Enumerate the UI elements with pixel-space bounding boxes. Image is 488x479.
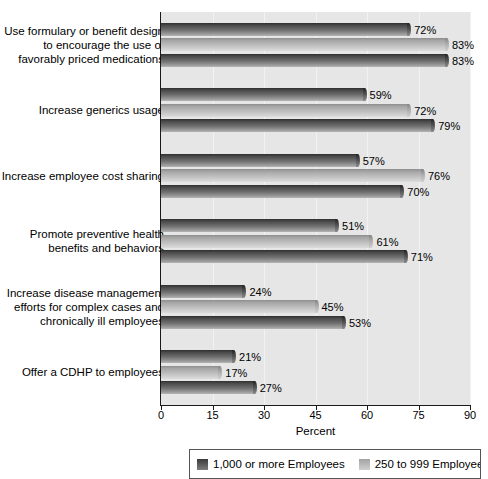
bar-end-cap [363, 88, 367, 101]
category-label-line: favorably priced medications [0, 52, 164, 66]
legend-swatch [359, 459, 370, 470]
category-label-line: Promote preventive health [0, 227, 164, 241]
category-label-line: Increase generics usage [0, 103, 164, 117]
category-label: Increase disease managementefforts for c… [0, 286, 164, 328]
bar-end-cap [315, 300, 319, 313]
bar-end-cap [445, 54, 449, 67]
bar-value-label: 57% [363, 155, 385, 168]
bar [161, 23, 408, 36]
category-label-line: Offer a CDHP to employees [0, 365, 164, 379]
category-label-line: benefits and behaviors [0, 241, 164, 255]
bar [161, 350, 233, 363]
bar-value-label: 51% [342, 220, 364, 233]
category-label: Use formulary or benefit designto encour… [0, 24, 164, 66]
plot-area [161, 12, 470, 405]
bar-value-label: 72% [414, 105, 436, 118]
category-label-line: efforts for complex cases and [0, 300, 164, 314]
bar-end-cap [404, 250, 408, 263]
category-label-line: chronically ill employees [0, 314, 164, 328]
x-axis-tick-label: 30 [244, 409, 284, 422]
bar-value-label: 61% [376, 236, 398, 249]
x-axis-tick-label: 0 [141, 409, 181, 422]
bar [161, 54, 446, 67]
bar-value-label: 72% [414, 24, 436, 37]
bar [161, 219, 336, 232]
x-axis-title: Percent [161, 425, 470, 437]
bar [161, 316, 343, 329]
legend-label: 1,000 or more Employees [213, 458, 345, 471]
category-label: Offer a CDHP to employees [0, 365, 164, 379]
category-label-line: Use formulary or benefit design [0, 24, 164, 38]
gridline [264, 12, 265, 405]
bar-value-label: 71% [411, 251, 433, 264]
category-label: Promote preventive healthbenefits and be… [0, 227, 164, 255]
bar-value-label: 59% [370, 89, 392, 102]
legend-swatch [197, 459, 208, 470]
x-axis-tick-label: 90 [450, 409, 488, 422]
bar [161, 154, 357, 167]
bar [161, 300, 316, 313]
bar [161, 250, 405, 263]
bar-value-label: 24% [249, 286, 271, 299]
gridline [470, 12, 471, 405]
bar [161, 169, 422, 182]
legend-label: 250 to 999 Employees [375, 458, 481, 471]
bar-value-label: 76% [428, 170, 450, 183]
bar [161, 38, 446, 51]
legend-item[interactable]: 1,000 or more Employees [197, 458, 345, 471]
bar-value-label: 53% [349, 317, 371, 330]
bar-end-cap [421, 169, 425, 182]
chart-legend: 1,000 or more Employees250 to 999 Employ… [189, 449, 481, 479]
bar [161, 285, 243, 298]
bar [161, 104, 408, 117]
bar [161, 88, 364, 101]
x-axis-tick-label: 45 [296, 409, 336, 422]
category-label-line: Increase employee cost sharing [0, 169, 164, 183]
category-label-line: Increase disease management [0, 286, 164, 300]
gridline [419, 12, 420, 405]
x-axis-tick-label: 15 [193, 409, 233, 422]
bar-value-label: 83% [452, 39, 474, 52]
bar [161, 366, 219, 379]
bar-value-label: 21% [239, 351, 261, 364]
y-axis-line [160, 12, 161, 405]
bar-value-label: 27% [260, 382, 282, 395]
gridline [213, 12, 214, 405]
bar-value-label: 45% [322, 301, 344, 314]
bar [161, 119, 432, 132]
category-label-line: to encourage the use of [0, 38, 164, 52]
category-label: Increase employee cost sharing [0, 169, 164, 183]
bar [161, 185, 401, 198]
bar-end-cap [253, 381, 257, 394]
legend-item[interactable]: 250 to 999 Employees [359, 458, 481, 471]
x-axis-tick-label: 60 [347, 409, 387, 422]
gridline [316, 12, 317, 405]
bar-value-label: 79% [438, 120, 460, 133]
bar-end-cap [342, 316, 346, 329]
bar-end-cap [445, 38, 449, 51]
gridline [367, 12, 368, 405]
bar [161, 235, 370, 248]
bar-end-cap [356, 154, 360, 167]
bar-value-label: 83% [452, 55, 474, 68]
bar [161, 381, 254, 394]
x-axis-tick-label: 75 [399, 409, 439, 422]
bar-value-label: 17% [225, 367, 247, 380]
category-label: Increase generics usage [0, 103, 164, 117]
bar-value-label: 70% [407, 186, 429, 199]
